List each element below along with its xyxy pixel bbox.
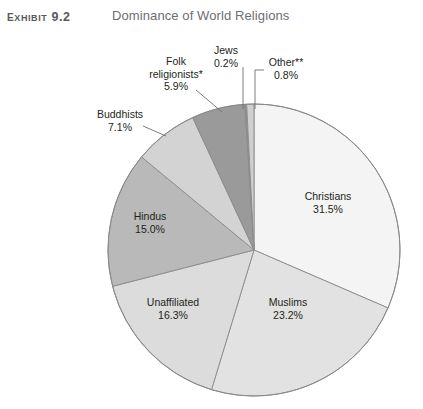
slice-label-buddhists: Buddhists 7.1% (80, 108, 160, 133)
slice-label-buddhists-name: Buddhists (97, 108, 143, 120)
slice-label-muslims: Muslims 23.2% (250, 296, 326, 322)
slice-value-buddhists: 7.1% (80, 121, 160, 134)
slice-label-other-name: Other** (269, 56, 303, 68)
slice-value-other: 0.8% (258, 69, 314, 82)
slice-label-christians: Christians 31.5% (284, 190, 372, 216)
slice-value-muslims: 23.2% (250, 309, 326, 322)
pie-slices (108, 104, 400, 396)
exhibit-header: Exhibit 9.2 Dominance of World Religions (0, 0, 423, 34)
slice-label-muslims-name: Muslims (269, 296, 308, 308)
slice-value-unaffiliated: 16.3% (126, 309, 220, 322)
slice-label-folk-religionists-line2: religionists* (149, 68, 203, 80)
slice-value-jews: 0.2% (200, 57, 252, 70)
slice-label-folk-religionists-line1: Folk (166, 55, 186, 67)
slice-label-other: Other** 0.8% (258, 56, 314, 81)
slice-value-folk-religionists: 5.9% (133, 80, 219, 93)
leader-line-folk-religionists (196, 90, 222, 112)
slice-label-hindus-name: Hindus (134, 210, 167, 222)
slice-label-unaffiliated: Unaffiliated 16.3% (126, 296, 220, 322)
slice-label-jews: Jews 0.2% (200, 44, 252, 69)
exhibit-number-label: Exhibit 9.2 (7, 8, 71, 24)
slice-label-jews-name: Jews (214, 44, 238, 56)
page-title: Dominance of World Religions (112, 8, 289, 23)
slice-label-unaffiliated-name: Unaffiliated (147, 296, 199, 308)
slice-value-hindus: 15.0% (112, 223, 188, 236)
slice-label-christians-name: Christians (305, 190, 352, 202)
slice-label-hindus: Hindus 15.0% (112, 210, 188, 236)
pie-chart: Folk religionists* 5.9% Jews 0.2% Other*… (0, 34, 423, 409)
slice-value-christians: 31.5% (284, 203, 372, 216)
